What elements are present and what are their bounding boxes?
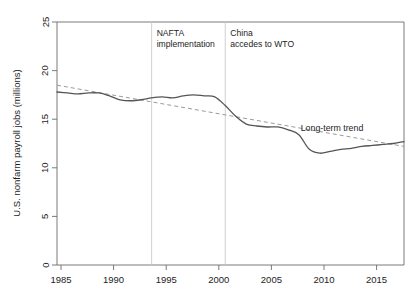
nafta-annotation-line1: NAFTA (157, 28, 185, 38)
nafta-annotation-line2: implementation (157, 39, 215, 49)
x-tick-label-1985: 1985 (50, 274, 71, 285)
long-term-trend-label: Long-term trend (301, 123, 364, 133)
china-wto-annotation-line2: accedes to WTO (230, 39, 294, 49)
chart-container: 0 5 10 15 20 25 U.S. nonfarm payroll job… (0, 0, 415, 301)
y-axis-title: U.S. nonfarm payroll jobs (millions) (11, 69, 22, 216)
x-tick-label-2000: 2000 (208, 274, 229, 285)
x-tick-label-1990: 1990 (103, 274, 124, 285)
x-tick-label-1995: 1995 (156, 274, 177, 285)
y-tick-label-10: 10 (40, 163, 51, 174)
y-tick-label-0: 0 (40, 262, 51, 267)
x-tick-label-2010: 2010 (313, 274, 334, 285)
china-wto-annotation-line1: China (230, 28, 253, 38)
y-tick-label-15: 15 (40, 114, 51, 125)
x-tick-label-2005: 2005 (261, 274, 282, 285)
x-tick-label-2015: 2015 (366, 274, 387, 285)
line-chart: 0 5 10 15 20 25 U.S. nonfarm payroll job… (0, 0, 415, 301)
y-tick-label-25: 25 (40, 17, 51, 28)
y-tick-label-5: 5 (40, 214, 51, 219)
y-tick-label-20: 20 (40, 65, 51, 76)
